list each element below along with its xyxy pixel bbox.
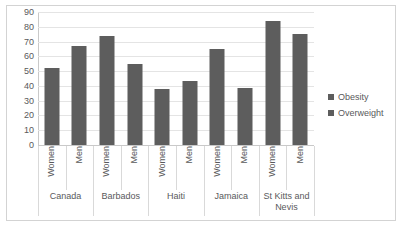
legend-item-obesity[interactable]: Obesity bbox=[328, 90, 384, 104]
gender-tick-women: Women bbox=[148, 146, 176, 190]
gender-tick-women: Women bbox=[204, 146, 232, 190]
gender-label: Men bbox=[129, 146, 140, 165]
gender-label: Men bbox=[74, 146, 85, 165]
y-tick-label-90: 90 bbox=[0, 8, 34, 17]
legend-label: Obesity bbox=[338, 92, 369, 102]
bar-slot bbox=[66, 12, 94, 145]
bar-slot bbox=[121, 12, 149, 145]
gender-label: Women bbox=[46, 146, 57, 178]
bar-slot bbox=[93, 12, 121, 145]
y-tick-label-20: 20 bbox=[0, 111, 34, 120]
legend-item-overweight[interactable]: Overweight bbox=[328, 106, 384, 120]
bar-slot bbox=[259, 12, 287, 145]
bar-haiti-women[interactable] bbox=[155, 89, 170, 145]
country-tick-st-kitts-and-nevis: St Kitts and Nevis bbox=[259, 191, 314, 216]
bar-slot bbox=[231, 12, 259, 145]
gender-label: Men bbox=[295, 146, 306, 165]
gender-tick-women: Women bbox=[259, 146, 287, 190]
country-label: Haiti bbox=[167, 191, 185, 202]
gender-tick-women: Women bbox=[93, 146, 121, 190]
country-label: St Kitts and Nevis bbox=[259, 191, 314, 213]
gender-label: Women bbox=[267, 146, 278, 178]
bar-st-kitts-and-nevis-men[interactable] bbox=[293, 34, 308, 145]
country-tick-haiti: Haiti bbox=[148, 191, 203, 216]
gender-label: Women bbox=[212, 146, 223, 178]
y-axis-ticks: 9080706050403020100 bbox=[0, 12, 34, 145]
gender-label: Men bbox=[239, 146, 250, 165]
legend-label: Overweight bbox=[338, 108, 384, 118]
bar-st-kitts-and-nevis-women[interactable] bbox=[265, 21, 280, 145]
gender-label: Men bbox=[184, 146, 195, 165]
y-tick-label-60: 60 bbox=[0, 52, 34, 61]
axis-separator bbox=[314, 146, 315, 216]
gender-tick-men: Men bbox=[231, 146, 259, 190]
country-tick-canada: Canada bbox=[38, 191, 93, 216]
axis-separator bbox=[286, 146, 287, 190]
bar-canada-women[interactable] bbox=[44, 68, 59, 145]
gender-label: Women bbox=[157, 146, 168, 178]
y-tick-label-30: 30 bbox=[0, 97, 34, 106]
bar-jamaica-men[interactable] bbox=[237, 88, 252, 145]
gender-tick-men: Men bbox=[286, 146, 314, 190]
legend-swatch-icon bbox=[328, 110, 334, 116]
axis-separator bbox=[66, 146, 67, 190]
y-tick-label-10: 10 bbox=[0, 126, 34, 135]
bar-slot bbox=[176, 12, 204, 145]
bars-layer bbox=[38, 12, 314, 145]
axis-separator bbox=[121, 146, 122, 190]
bar-canada-men[interactable] bbox=[72, 46, 87, 145]
gender-label: Women bbox=[101, 146, 112, 178]
country-tick-barbados: Barbados bbox=[93, 191, 148, 216]
legend: ObesityOverweight bbox=[328, 90, 384, 122]
bar-slot bbox=[148, 12, 176, 145]
country-tick-jamaica: Jamaica bbox=[204, 191, 259, 216]
bar-chart: 9080706050403020100 WomenMenWomenMenWome… bbox=[0, 0, 402, 227]
country-label: Jamaica bbox=[214, 191, 248, 202]
y-tick-label-70: 70 bbox=[0, 38, 34, 47]
gender-tick-men: Men bbox=[176, 146, 204, 190]
axis-separator bbox=[231, 146, 232, 190]
gender-tick-men: Men bbox=[121, 146, 149, 190]
axis-separator bbox=[176, 146, 177, 190]
bar-barbados-men[interactable] bbox=[127, 64, 142, 145]
bar-slot bbox=[204, 12, 232, 145]
bar-slot bbox=[38, 12, 66, 145]
bar-jamaica-women[interactable] bbox=[210, 49, 225, 145]
gender-tick-women: Women bbox=[38, 146, 66, 190]
gender-tick-men: Men bbox=[66, 146, 94, 190]
plot-area bbox=[38, 12, 314, 145]
legend-swatch-icon bbox=[328, 94, 334, 100]
y-tick-label-40: 40 bbox=[0, 82, 34, 91]
country-label: Barbados bbox=[102, 191, 141, 202]
country-label: Canada bbox=[50, 191, 82, 202]
bar-haiti-men[interactable] bbox=[182, 81, 197, 145]
y-tick-label-50: 50 bbox=[0, 67, 34, 76]
y-tick-label-0: 0 bbox=[0, 141, 34, 150]
category-axis: WomenMenWomenMenWomenMenWomenMenWomenMen… bbox=[38, 146, 314, 216]
bar-slot bbox=[286, 12, 314, 145]
bar-barbados-women[interactable] bbox=[99, 36, 114, 145]
y-tick-label-80: 80 bbox=[0, 23, 34, 32]
